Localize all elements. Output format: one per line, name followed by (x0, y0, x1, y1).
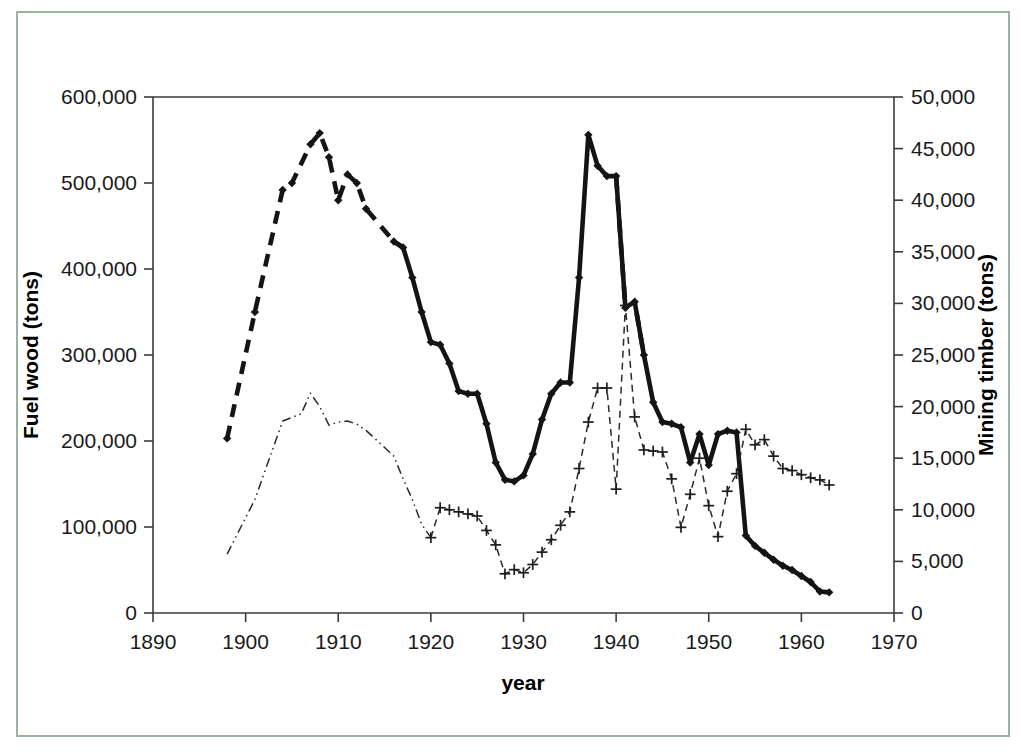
right-tick-label: 20,000 (911, 395, 975, 418)
mining-timber-marker (824, 480, 835, 491)
x-tick-label: 1890 (130, 630, 177, 653)
mining-timber-marker (629, 412, 640, 423)
fuel-wood-marker (612, 172, 620, 180)
x-tick-label: 1910 (315, 630, 362, 653)
mining-timber-marker (648, 446, 659, 457)
fuel-wood-line-dashed (227, 133, 403, 438)
mining-timber-marker (601, 383, 612, 394)
x-axis-tick-labels: 189019001910192019301940195019601970 (130, 630, 918, 653)
mining-timber-marker (620, 300, 631, 311)
left-tick-label: 0 (125, 601, 137, 624)
figure-root: 0100,000200,000300,000400,000500,000600,… (0, 0, 1021, 755)
fuel-wood-marker (732, 428, 740, 436)
mining-timber-marker (509, 564, 520, 575)
right-tick-label: 50,000 (911, 85, 975, 108)
mining-timber-marker (546, 534, 557, 545)
mining-timber-marker (750, 439, 761, 450)
left-axis-tick-labels: 0100,000200,000300,000400,000500,000600,… (61, 85, 137, 624)
mining-timber-marker (555, 520, 566, 531)
fuel-wood-line-solid (394, 135, 626, 482)
mining-timber-marker (740, 424, 751, 435)
fuel-wood-marker (575, 273, 583, 281)
mining-timber-marker (796, 469, 807, 480)
left-axis-title: Fuel wood (tons) (19, 271, 42, 439)
mining-timber-marker (722, 486, 733, 497)
x-tick-label: 1920 (408, 630, 455, 653)
mining-timber-marker (463, 509, 474, 520)
mining-timber-marker (537, 547, 548, 558)
x-axis-ticks (153, 613, 894, 622)
fuel-wood-line-solid (635, 302, 830, 593)
fuel-wood-marker (640, 351, 648, 359)
line-chart: 0100,000200,000300,000400,000500,000600,… (0, 0, 1021, 755)
mining-timber-marker (657, 447, 668, 458)
x-tick-label: 1950 (685, 630, 732, 653)
mining-timber-marker (787, 465, 798, 476)
mining-timber-marker (583, 417, 594, 428)
mining-timber-marker (777, 463, 788, 474)
x-tick-label: 1930 (500, 630, 547, 653)
left-tick-label: 300,000 (61, 343, 137, 366)
right-tick-label: 45,000 (911, 137, 975, 160)
mining-timber-marker (564, 506, 575, 517)
mining-timber-marker (481, 525, 492, 536)
mining-timber-marker (490, 539, 501, 550)
mining-timber-marker (768, 451, 779, 462)
mining-timber-marker (472, 511, 483, 522)
right-axis-tick-labels: 05,00010,00015,00020,00025,00030,00035,0… (911, 85, 975, 624)
left-tick-label: 500,000 (61, 171, 137, 194)
fuel-wood-marker (566, 378, 574, 386)
x-axis-title: year (501, 671, 544, 694)
x-tick-label: 1970 (871, 630, 918, 653)
mining-timber-marker (611, 484, 622, 495)
x-tick-label: 1960 (778, 630, 825, 653)
mining-timber-line-dashdot (227, 393, 431, 554)
mining-timber-marker (592, 383, 603, 394)
mining-timber-marker (500, 568, 511, 579)
right-axis-ticks (894, 97, 903, 613)
mining-timber-marker (805, 472, 816, 483)
mining-timber-marker (666, 473, 677, 484)
right-tick-label: 35,000 (911, 240, 975, 263)
right-axis-title: Mining timber (tons) (974, 254, 997, 456)
left-tick-label: 200,000 (61, 429, 137, 452)
mining-timber-marker (759, 434, 770, 445)
left-tick-label: 400,000 (61, 257, 137, 280)
mining-timber-marker (713, 531, 724, 542)
left-axis-ticks (144, 97, 153, 613)
left-tick-label: 100,000 (61, 515, 137, 538)
mining-timber-marker (815, 474, 826, 485)
series-layer (223, 129, 835, 597)
right-tick-label: 10,000 (911, 498, 975, 521)
right-tick-label: 0 (911, 601, 923, 624)
mining-timber-marker (425, 532, 436, 543)
right-tick-label: 5,000 (911, 549, 964, 572)
right-tick-label: 30,000 (911, 291, 975, 314)
mining-timber-marker (435, 502, 446, 513)
x-tick-label: 1940 (593, 630, 640, 653)
right-tick-label: 25,000 (911, 343, 975, 366)
mining-timber-marker (676, 522, 687, 533)
right-tick-label: 15,000 (911, 446, 975, 469)
mining-timber-marker (639, 445, 650, 456)
mining-timber-marker (703, 500, 714, 511)
mining-timber-marker (685, 489, 696, 500)
x-tick-label: 1900 (222, 630, 269, 653)
mining-timber-marker (444, 504, 455, 515)
mining-timber-marker (574, 463, 585, 474)
fuel-wood-marker (825, 588, 833, 596)
mining-timber-marker (453, 506, 464, 517)
right-tick-label: 40,000 (911, 188, 975, 211)
left-tick-label: 600,000 (61, 85, 137, 108)
